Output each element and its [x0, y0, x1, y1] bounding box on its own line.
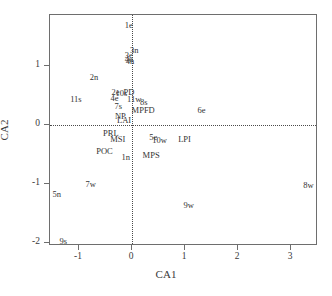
- data-point-label: LPI: [178, 135, 191, 144]
- data-point-label: 7s: [114, 101, 122, 110]
- x-axis-tick-label: 1: [182, 252, 187, 262]
- y-axis-tick: [44, 183, 49, 184]
- x-axis-label: CA1: [0, 268, 332, 280]
- x-axis-tick-label: 3: [288, 252, 293, 262]
- zero-line-horizontal: [50, 125, 316, 126]
- data-point-label: MPFD: [132, 106, 155, 115]
- y-axis-tick: [44, 124, 49, 125]
- y-axis-label: CA2: [0, 120, 10, 141]
- data-point-label: 8w: [303, 181, 313, 190]
- data-point-label: 10w: [152, 136, 167, 145]
- data-point-label: 1e: [125, 21, 133, 30]
- plot-area: [49, 14, 317, 245]
- data-point-label: 11s: [70, 94, 82, 103]
- data-point-label: 1n: [121, 153, 130, 162]
- x-axis-tick: [184, 245, 185, 250]
- data-point-label: POC: [96, 147, 113, 156]
- y-axis-tick-label: -1: [32, 178, 40, 188]
- data-point-label: LAI: [117, 116, 131, 125]
- ca-ordination-scatter-plot: CA1 CA2 -1012310-1-2 1e3n3e4e4n2n2e10sPD…: [0, 0, 332, 296]
- x-axis-tick: [78, 245, 79, 250]
- data-point-label: 6e: [197, 106, 205, 115]
- y-axis-tick: [44, 242, 49, 243]
- data-point-label: 4n: [126, 57, 135, 66]
- data-point-label: MPS: [143, 151, 160, 160]
- y-axis-tick-label: 0: [35, 119, 40, 129]
- data-point-label: 5n: [53, 189, 62, 198]
- y-axis-tick-label: 1: [35, 60, 40, 70]
- data-point-label: 9w: [184, 201, 194, 210]
- x-axis-tick: [290, 245, 291, 250]
- data-point-label: 9s: [59, 237, 67, 246]
- x-axis-tick-label: 2: [235, 252, 240, 262]
- y-axis-tick: [44, 65, 49, 66]
- data-point-label: 7w: [86, 180, 96, 189]
- x-axis-tick-label: -1: [74, 252, 82, 262]
- x-axis-tick: [237, 245, 238, 250]
- x-axis-tick-label: 0: [129, 252, 134, 262]
- y-axis-tick-label: -2: [32, 237, 40, 247]
- x-axis-tick: [131, 245, 132, 250]
- data-point-label: MSI: [110, 135, 125, 144]
- data-point-label: 2n: [90, 73, 99, 82]
